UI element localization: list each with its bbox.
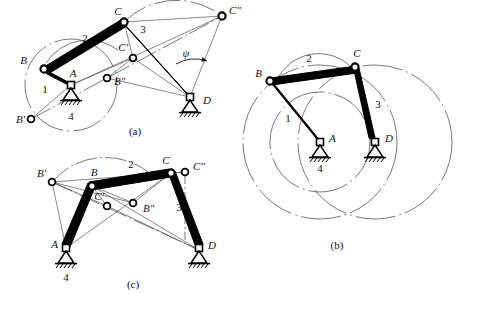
label-C-dprime-c: C" <box>193 160 205 172</box>
label-A-a: A <box>69 67 77 79</box>
figure-root: B C A D B' B" C' C" 1 2 3 4 ψ (a) <box>0 0 483 312</box>
label-C-b: C <box>353 47 361 59</box>
label-C-prime-a: C' <box>118 41 128 53</box>
joint-C-prime-a <box>130 55 137 62</box>
label-B-dprime-a: B" <box>114 75 126 87</box>
label-C-prime-c: C' <box>94 190 104 202</box>
label-B-a: B <box>20 54 27 66</box>
label-link-1-c: 1 <box>77 207 83 219</box>
label-link-2-a: 2 <box>82 32 88 44</box>
joint-B-dprime-c <box>130 200 137 207</box>
linkage-figure-svg: B C A D B' B" C' C" 1 2 3 4 ψ (a) <box>0 0 483 312</box>
label-A-c: A <box>50 238 58 250</box>
label-link-3-a: 3 <box>140 23 146 35</box>
caption-b: (b) <box>331 239 344 252</box>
label-D-a: D <box>202 94 211 106</box>
joint-B-b <box>266 77 273 84</box>
label-link-1-a: 1 <box>42 83 48 95</box>
joint-C-c <box>167 169 174 176</box>
joint-C-b <box>351 63 358 70</box>
joint-B-dprime-a <box>104 75 111 82</box>
joint-C-prime-c <box>104 203 111 210</box>
label-link-2-b: 2 <box>306 52 312 64</box>
label-link-3-c: 3 <box>176 201 182 213</box>
label-A-b: A <box>328 132 336 144</box>
caption-a: (a) <box>129 125 142 138</box>
joint-B-a <box>40 65 47 72</box>
label-B-c: B <box>91 166 98 178</box>
label-D-c: D <box>207 239 216 251</box>
joint-B-prime-a <box>28 116 35 123</box>
label-B-prime-c: B' <box>37 167 47 179</box>
label-link-4-c: 4 <box>63 271 69 283</box>
label-psi-a: ψ <box>183 47 190 59</box>
label-link-3-b: 3 <box>375 98 381 110</box>
joint-C-dprime-a <box>218 12 225 19</box>
label-B-b: B <box>255 67 262 79</box>
label-link-4-b: 4 <box>317 162 323 174</box>
label-link-2-c: 2 <box>128 158 134 170</box>
caption-c: (c) <box>127 278 140 291</box>
label-D-b: D <box>384 132 393 144</box>
label-C-a: C <box>114 5 122 17</box>
joint-C-dprime-c <box>182 169 189 176</box>
label-B-dprime-c: B" <box>143 202 155 214</box>
joint-B-prime-c <box>49 179 56 186</box>
label-C-c: C <box>162 154 170 166</box>
joint-B-c <box>88 182 95 189</box>
label-C-dprime-a: C" <box>229 4 241 16</box>
joint-C-a <box>120 18 127 25</box>
label-link-4-a: 4 <box>68 110 74 122</box>
label-B-prime-a: B' <box>16 113 26 125</box>
label-link-1-b: 1 <box>285 112 291 124</box>
figure-background <box>0 0 483 312</box>
